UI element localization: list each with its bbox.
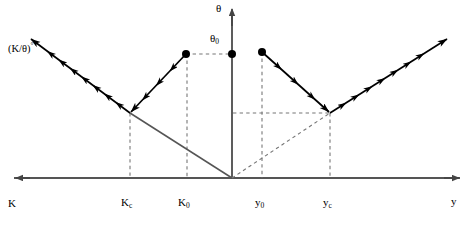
tick-label-y0: y0	[255, 197, 264, 208]
point-markers	[182, 48, 266, 58]
figure-canvas	[0, 0, 475, 227]
tick-label-k0: K0	[178, 197, 190, 208]
dot-theta0-on-axis	[228, 50, 236, 58]
left-outgoing-ray	[31, 39, 130, 113]
vertical-dashed-lines	[130, 52, 330, 178]
tick-label-k0-sub: 0	[186, 201, 190, 210]
left-outgoing-ray-line	[31, 39, 130, 113]
left-incoming-ray	[131, 54, 186, 112]
tick-label-yc-main: y	[323, 196, 329, 208]
tick-label-kc: Kc	[121, 197, 132, 208]
dashed-diagonal-origin-to-right-vertex	[232, 113, 330, 178]
label-k-over-theta: (K/θ)°	[8, 44, 34, 55]
tick-label-y0-main: y	[255, 196, 261, 208]
tick-label-kc-sub: c	[129, 201, 132, 210]
right-outgoing-ray	[330, 39, 447, 113]
left-incoming-ray-line	[131, 54, 186, 112]
ray-diagram-figure: (K/θ)° θ θ0 K y Kc K0 y0 yc	[0, 0, 475, 227]
label-theta0-sub: 0	[215, 37, 219, 46]
right-outgoing-ray-line	[330, 39, 447, 113]
dot-right-source	[258, 48, 266, 56]
tick-label-y0-sub: 0	[261, 201, 265, 210]
right-incoming-ray	[262, 52, 329, 112]
dot-left-source	[182, 50, 190, 58]
label-y-axis: y	[451, 196, 457, 207]
label-k-over-theta-superscript: °	[31, 41, 34, 50]
tick-label-kc-main: K	[121, 196, 129, 208]
label-k-over-theta-text: (K/θ)	[8, 43, 31, 54]
tick-label-k0-main: K	[178, 196, 186, 208]
tick-label-yc-sub: c	[329, 201, 332, 210]
label-theta0: θ0	[210, 33, 219, 44]
label-theta-axis: θ	[216, 3, 221, 14]
horizontal-dashed-lines	[186, 54, 330, 113]
label-k-axis: K	[8, 198, 16, 209]
solid-diagonal-left-vertex-to-origin	[130, 113, 232, 178]
tick-label-yc: yc	[323, 197, 332, 208]
